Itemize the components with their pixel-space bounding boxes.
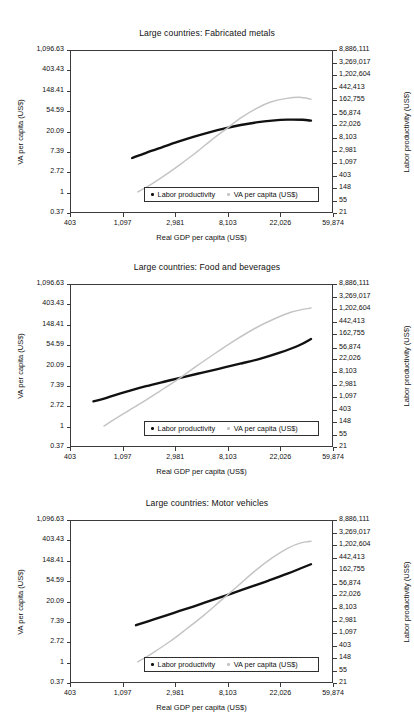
y-tick-mark-right	[333, 100, 337, 101]
y-tick-label-right: 1,202,604	[339, 72, 371, 79]
x-axis-title: Real GDP per capita (US$)	[70, 467, 333, 476]
x-tick-label: 403	[64, 220, 76, 227]
y-tick-label-left: 54.59	[0, 108, 64, 115]
x-tick-mark	[70, 683, 71, 687]
y-tick-mark-right	[333, 284, 337, 285]
y-tick-mark-left	[67, 581, 71, 582]
y-tick-label-left: 1,096.63	[0, 516, 64, 523]
y-tick-mark-right	[333, 176, 337, 177]
x-tick-mark	[333, 447, 334, 451]
x-tick-label: 59,874	[322, 690, 344, 697]
y-tick-mark-right	[333, 334, 337, 335]
x-tick-label: 2,981	[166, 220, 184, 227]
y-tick-label-left: 1,096.63	[0, 46, 64, 53]
x-tick-mark	[228, 683, 229, 687]
y-tick-mark-left	[67, 540, 71, 541]
y-tick-label-left: 0.37	[0, 443, 64, 450]
y-tick-mark-left	[67, 386, 71, 387]
y-tick-label-right: 21	[339, 443, 347, 450]
legend-item-va-per-capita[interactable]: VA per capita (US$)	[227, 424, 298, 433]
y-tick-mark-right	[333, 348, 337, 349]
y-tick-label-right: 3,269,017	[339, 293, 371, 300]
y-tick-label-left: 148.41	[0, 87, 64, 94]
legend-item-labor-productivity[interactable]: Labor productivity	[151, 190, 215, 199]
y-tick-mark-left	[67, 70, 71, 71]
chart-title: Large countries: Motor vehicles	[0, 498, 414, 508]
x-tick-mark	[70, 213, 71, 217]
y-tick-mark-right	[333, 385, 337, 386]
y-tick-mark-left	[67, 50, 71, 51]
legend-item-va-per-capita[interactable]: VA per capita (US$)	[227, 190, 298, 199]
y-tick-label-right: 1,097	[339, 630, 357, 637]
y-tick-mark-right	[333, 595, 337, 596]
legend-label: VA per capita (US$)	[234, 190, 298, 199]
left-axis-title: VA per capita (US$)	[16, 569, 25, 635]
y-tick-mark-left	[67, 284, 71, 285]
y-tick-label-right: 22,026	[339, 356, 361, 363]
x-tick-mark	[228, 213, 229, 217]
x-tick-label: 22,026	[270, 690, 292, 697]
x-tick-mark	[333, 683, 334, 687]
y-tick-mark-right	[333, 88, 337, 89]
y-tick-label-left: 2.72	[0, 639, 64, 646]
y-tick-label-right: 162,755	[339, 567, 365, 574]
y-tick-label-left: 7.39	[0, 382, 64, 389]
y-tick-label-right: 162,755	[339, 331, 365, 338]
y-tick-mark-right	[333, 435, 337, 436]
y-tick-mark-left	[67, 622, 71, 623]
x-tick-label: 1,097	[114, 220, 132, 227]
y-tick-mark-right	[333, 410, 337, 411]
y-tick-mark-right	[333, 671, 337, 672]
y-tick-label-right: 2,981	[339, 617, 357, 624]
y-tick-mark-right	[333, 75, 337, 76]
legend-item-labor-productivity[interactable]: Labor productivity	[151, 424, 215, 433]
series-line-va-per-capita-us	[104, 308, 311, 426]
x-tick-mark	[70, 447, 71, 451]
y-tick-label-right: 8,886,111	[339, 516, 370, 523]
legend-marker-dot-icon	[227, 427, 230, 430]
legend-item-va-per-capita[interactable]: VA per capita (US$)	[227, 660, 298, 669]
legend-item-labor-productivity[interactable]: Labor productivity	[151, 660, 215, 669]
y-tick-label-left: 20.09	[0, 362, 64, 369]
x-tick-mark	[175, 447, 176, 451]
x-tick-mark	[228, 447, 229, 451]
y-tick-label-right: 442,413	[339, 554, 365, 561]
y-tick-mark-right	[333, 163, 337, 164]
y-tick-label-right: 55	[339, 197, 347, 204]
y-tick-label-left: 403.43	[0, 67, 64, 74]
y-tick-label-right: 21	[339, 209, 347, 216]
y-tick-label-left: 2.72	[0, 403, 64, 410]
chart-legend[interactable]: Labor productivityVA per capita (US$)	[144, 421, 319, 436]
y-tick-mark-right	[333, 63, 337, 64]
chart-legend[interactable]: Labor productivityVA per capita (US$)	[144, 657, 319, 672]
y-tick-mark-right	[333, 309, 337, 310]
y-tick-label-left: 148.41	[0, 321, 64, 328]
x-tick-label: 22,026	[270, 454, 292, 461]
y-tick-label-right: 442,413	[339, 84, 365, 91]
y-tick-label-right: 8,103	[339, 605, 357, 612]
legend-marker-dot-icon	[151, 663, 154, 666]
y-tick-label-right: 1,202,604	[339, 306, 371, 313]
chart-panel-food-and-beverages: Large countries: Food and beverages0.371…	[0, 250, 414, 490]
y-tick-mark-left	[67, 91, 71, 92]
y-tick-mark-right	[333, 570, 337, 571]
x-tick-label: 403	[64, 454, 76, 461]
x-tick-mark	[175, 213, 176, 217]
x-tick-label: 59,874	[322, 220, 344, 227]
x-tick-label: 8,103	[219, 220, 237, 227]
legend-marker-dot-icon	[151, 193, 154, 196]
y-tick-mark-right	[333, 397, 337, 398]
y-tick-label-right: 56,874	[339, 110, 361, 117]
figure-page: Large countries: Fabricated metals0.3712…	[0, 0, 414, 727]
y-tick-label-left: 54.59	[0, 578, 64, 585]
series-line-va-per-capita-us	[138, 541, 311, 662]
x-tick-mark	[123, 213, 124, 217]
y-tick-label-right: 22,026	[339, 122, 361, 129]
chart-panel-motor-vehicles: Large countries: Motor vehicles0.3712.72…	[0, 490, 414, 727]
chart-legend[interactable]: Labor productivityVA per capita (US$)	[144, 187, 319, 202]
legend-label: Labor productivity	[158, 190, 216, 199]
y-tick-mark-left	[67, 406, 71, 407]
y-tick-mark-right	[333, 608, 337, 609]
y-tick-mark-left	[67, 366, 71, 367]
y-tick-label-right: 1,097	[339, 394, 357, 401]
